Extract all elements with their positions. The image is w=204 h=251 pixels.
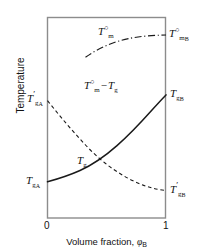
label-tga-prime: T′gA — [27, 93, 43, 104]
label-minus-operator: − — [100, 79, 108, 91]
phi-subscript: B — [142, 241, 147, 248]
label-tga-prime-subsub: A — [39, 101, 43, 107]
label-tg-curve-sub: g — [83, 161, 87, 169]
label-tgb-prime-mark: ′ — [176, 180, 178, 190]
label-tgb-subsub: B — [180, 96, 184, 102]
x-tick-1: 1 — [163, 220, 169, 231]
label-tm-top: T○m — [98, 26, 114, 37]
y-axis-label: Temperature — [15, 38, 26, 134]
label-tgb-prime-subsub: B — [182, 192, 186, 198]
x-axis-label-text: Volume fraction, — [66, 236, 137, 247]
label-tmb: T○mB — [169, 28, 189, 39]
label-tga-subsub: A — [36, 183, 40, 189]
label-tm-minus-tg-sub2: g — [114, 86, 118, 94]
x-axis-label: Volume fraction, φB — [47, 236, 166, 247]
label-tm-top-sub: m — [108, 32, 113, 40]
label-tgb-prime: T′gB — [170, 184, 186, 195]
x-tick-0: 0 — [44, 220, 50, 231]
label-tga-prime-mark: ′ — [33, 89, 35, 99]
label-tmb-sub: m — [179, 34, 184, 42]
plot-frame — [48, 18, 166, 219]
label-tga: TgA — [26, 175, 40, 186]
phase-diagram-figure: Temperature Volume fraction, φB 0 1 T○m … — [0, 0, 204, 251]
label-tgb: TgB — [170, 88, 184, 99]
label-tm-minus-tg-sub1: m — [94, 86, 99, 94]
label-tmb-subsub: B — [185, 36, 189, 42]
label-tm-minus-tg: T○m−Tg — [84, 80, 118, 91]
label-tg-curve: Tg — [77, 155, 87, 166]
